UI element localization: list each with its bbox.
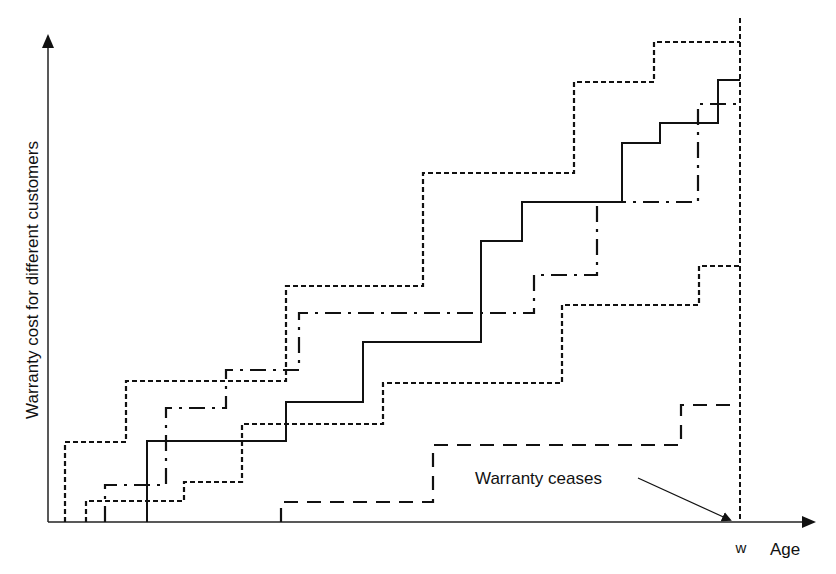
series-customer-2 [147, 80, 740, 522]
series-customer-5 [281, 405, 740, 522]
w-tick-label: w [735, 539, 747, 556]
series-group [65, 42, 740, 522]
warranty-cost-chart: Warranty cost for different customers Ag… [0, 0, 836, 574]
series-customer-3 [105, 104, 740, 522]
series-customer-4 [86, 266, 740, 522]
y-axis-label: Warranty cost for different customers [23, 141, 42, 419]
x-axis-label: Age [770, 540, 800, 559]
x-axis-arrow-icon [802, 516, 816, 528]
annotation-arrow [638, 478, 730, 520]
y-axis-arrow-icon [42, 34, 54, 48]
warranty-ceases-annotation: Warranty ceases [475, 469, 602, 488]
